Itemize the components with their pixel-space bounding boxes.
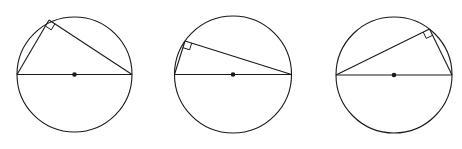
triangle-leg-left	[175, 41, 186, 75]
circle-figure-2	[175, 16, 292, 133]
circle-figure-3	[336, 17, 452, 133]
right-angle-marker-icon	[45, 24, 54, 30]
triangle-leg-left	[17, 20, 49, 75]
triangle-leg-right	[185, 41, 292, 75]
center-point-dot	[231, 72, 236, 77]
circle-figure-1	[17, 17, 132, 132]
diagram-canvas	[0, 0, 462, 149]
triangle-leg-right	[430, 29, 453, 75]
triangle-leg-left	[336, 29, 430, 75]
center-point-dot	[392, 73, 397, 78]
center-point-dot	[72, 72, 77, 77]
triangle-leg-right	[49, 20, 132, 75]
